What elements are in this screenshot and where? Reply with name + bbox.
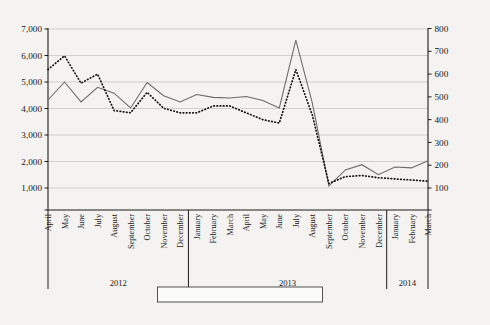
left-axis-tick-label: 6,000 (21, 51, 42, 61)
month-tick-label: August (308, 213, 317, 237)
year-groups: 201220132014 (48, 210, 428, 289)
chart-plot-area: 1,0002,0003,0004,0005,0006,0007,00010020… (0, 0, 490, 325)
month-tick-label: June (77, 214, 86, 229)
left-axis-tick-label: 1,000 (21, 183, 42, 193)
left-axis-tick-label: 5,000 (21, 77, 42, 87)
month-tick-label: September (325, 214, 334, 249)
left-axis-tick-label: 7,000 (21, 24, 42, 34)
year-label: 2013 (279, 278, 296, 288)
month-tick-label: June (275, 214, 284, 229)
right-axis-tick-label: 200 (435, 160, 449, 170)
month-tick-label: January (391, 213, 400, 239)
month-tick-label: November (358, 214, 367, 249)
left-axis: 1,0002,0003,0004,0005,0006,0007,000 (21, 24, 48, 210)
year-label: 2014 (399, 278, 417, 288)
line-chart-svg: 1,0002,0003,0004,0005,0006,0007,00010020… (0, 0, 490, 325)
month-tick-label: March (424, 214, 433, 235)
year-label: 2012 (110, 278, 127, 288)
month-tick-label: July (94, 213, 103, 228)
month-tick-label: May (259, 213, 268, 229)
series-line-single-cases (48, 40, 428, 186)
right-axis-tick-label: 100 (435, 183, 449, 193)
month-tick-label: April (242, 213, 251, 231)
month-tick-label: March (226, 214, 235, 235)
right-axis-tick-label: 800 (435, 24, 449, 34)
month-tick-label: February (209, 213, 218, 243)
gridlines-group (48, 29, 428, 188)
right-axis-tick-label: 300 (435, 138, 449, 148)
month-tick-label: August (110, 213, 119, 237)
series-group (48, 40, 428, 186)
right-axis-tick-label: 400 (435, 115, 449, 125)
month-tick-label: October (143, 214, 152, 241)
right-axis-tick-label: 700 (435, 46, 449, 56)
month-tick-label: December (176, 214, 185, 248)
month-tick-label: November (160, 214, 169, 249)
month-labels-group: AprilMayJuneJulyAugustSeptemberOctoberNo… (44, 213, 433, 249)
month-tick-label: September (127, 214, 136, 249)
chart-legend (158, 287, 323, 302)
chart-figure: 1,0002,0003,0004,0005,0006,0007,00010020… (0, 0, 490, 325)
month-tick-label: December (375, 214, 384, 248)
right-axis: 100200300400500600700800 (428, 24, 449, 210)
month-tick-label: July (292, 213, 301, 228)
month-tick-label: May (61, 213, 70, 229)
month-tick-label: January (193, 213, 202, 239)
right-axis-tick-label: 600 (435, 69, 449, 79)
month-tick-label: October (341, 214, 350, 241)
month-tick-label: February (408, 213, 417, 243)
left-axis-tick-label: 4,000 (21, 104, 42, 114)
right-axis-tick-label: 500 (435, 92, 449, 102)
series-line-multiple-cases (48, 56, 428, 184)
left-axis-tick-label: 2,000 (21, 157, 42, 167)
month-tick-label: April (44, 213, 53, 231)
left-axis-tick-label: 3,000 (21, 130, 42, 140)
legend-box (158, 287, 323, 302)
